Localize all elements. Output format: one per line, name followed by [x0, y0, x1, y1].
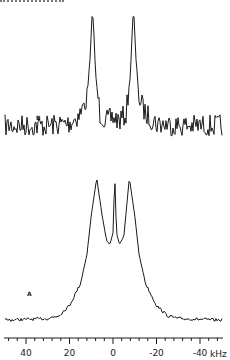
x-axis-ticks	[9, 338, 218, 344]
tick-label: -40	[193, 348, 208, 358]
tick-label: 0	[110, 348, 116, 358]
x-axis-unit-label: kHz	[210, 349, 227, 359]
tick-label: 20	[64, 348, 76, 358]
spectrum-a-trace	[5, 180, 222, 321]
panel-label-b: B	[36, 114, 41, 121]
tick-label: -20	[149, 348, 164, 358]
panel-label-a: A	[27, 290, 32, 297]
nmr-spectra-figure: B A 40200-20-40 kHz	[0, 0, 230, 360]
x-axis-tick-labels: 40200-20-40	[20, 348, 207, 358]
tick-label: 40	[20, 348, 32, 358]
